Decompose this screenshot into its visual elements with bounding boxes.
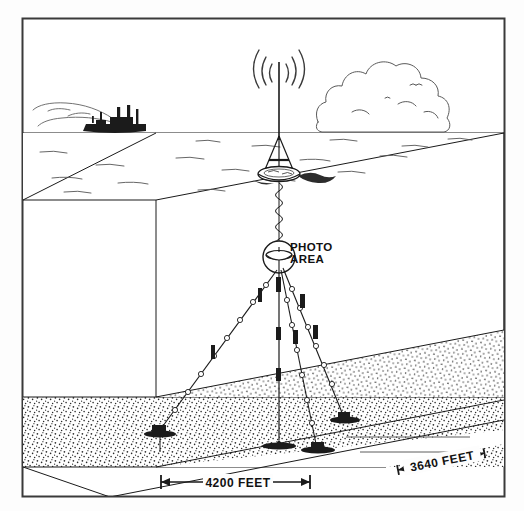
- instrument-package: [258, 288, 262, 302]
- instrument-package: [276, 368, 281, 381]
- instrument-package: [211, 345, 215, 359]
- photo-area-label-line2: AREA: [290, 253, 324, 265]
- diagram-canvas: PHOTO AREA: [0, 0, 524, 511]
- instrument-package: [293, 330, 298, 344]
- instrument-package: [276, 327, 281, 340]
- instrument-package: [276, 277, 281, 292]
- instrument-package: [300, 294, 305, 308]
- instrument-package: [313, 325, 318, 339]
- photo-area-label-line1: PHOTO: [290, 241, 333, 253]
- width-dimension-label: 4200 FEET: [205, 476, 270, 490]
- buoy-float: [258, 167, 300, 182]
